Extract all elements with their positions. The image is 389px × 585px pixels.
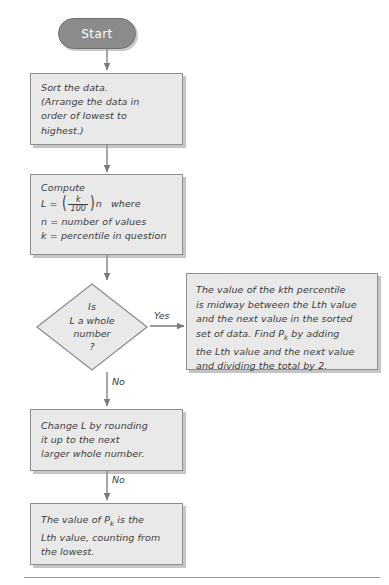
flowchart-canvas: Start Sort the data. (Arrange the data i… <box>0 0 389 585</box>
yes-result-line-1: The value of the kth percentile <box>196 283 369 298</box>
yes-result-line-6: and dividing the total by 2. <box>196 359 369 374</box>
yes-result-line-4: set of data. Find Pk by adding <box>196 327 369 345</box>
node-compute-heading: Compute <box>41 181 173 195</box>
node-sort-line-3: order of lowest to <box>41 109 173 123</box>
node-start-label: Start <box>81 27 112 41</box>
node-compute-formula: L = (k100)nwhere <box>41 196 173 214</box>
decision-diamond-shape <box>35 282 149 372</box>
node-sort-line-4: highest.) <box>41 124 173 138</box>
node-decision[interactable]: Is L a whole number ? <box>35 282 149 372</box>
yes-result-line-2: is midway between the Lth value <box>196 298 369 313</box>
def-k-equals: = <box>50 230 58 241</box>
formula-fraction: k100 <box>68 196 88 214</box>
final-result-line-1: The value of Pk is the <box>41 513 173 531</box>
formula-numerator: k <box>68 196 88 204</box>
node-start[interactable]: Start <box>58 18 136 49</box>
edge-label-yes: Yes <box>154 310 170 321</box>
footer-divider <box>24 577 380 578</box>
node-round-up[interactable]: Change L by rounding it up to the next l… <box>30 409 183 471</box>
final-result-line-3: the lowest. <box>41 545 173 559</box>
edge-label-no-decision: No <box>112 376 125 387</box>
round-up-line-2: it up to the next <box>41 433 173 447</box>
node-compute[interactable]: Compute L = (k100)nwhere n = number of v… <box>30 174 183 255</box>
round-up-line-1: Change L by rounding <box>41 419 173 433</box>
def-k-symbol: k <box>41 230 47 241</box>
edge-label-no-roundup: No <box>112 474 125 485</box>
node-compute-def-k: k = percentile in question <box>41 229 173 243</box>
def-n-text: number of values <box>61 216 146 227</box>
round-up-line-3: larger whole number. <box>41 447 173 461</box>
formula-lhs: L <box>41 199 46 210</box>
formula-denominator: 100 <box>68 204 88 213</box>
node-sort-data[interactable]: Sort the data. (Arrange the data in orde… <box>30 73 183 145</box>
def-n-equals: = <box>50 216 58 227</box>
def-n-symbol: n <box>41 216 47 227</box>
node-yes-result[interactable]: The value of the kth percentile is midwa… <box>186 273 378 370</box>
node-sort-line-1: Sort the data. <box>41 81 173 95</box>
node-sort-line-2: (Arrange the data in <box>41 95 173 109</box>
yes-result-line-3: and the next value in the sorted <box>196 312 369 327</box>
formula-equals: = <box>50 199 58 210</box>
formula-multiplier: n <box>96 199 102 210</box>
node-final-result[interactable]: The value of Pk is the Lth value, counti… <box>30 503 183 565</box>
def-k-text: percentile in question <box>61 230 167 241</box>
final-result-line-2: Lth value, counting from <box>41 531 173 545</box>
yes-result-line-5: the Lth value and the next value <box>196 345 369 360</box>
node-compute-def-n: n = number of values <box>41 215 173 229</box>
formula-trailing: where <box>111 199 141 210</box>
